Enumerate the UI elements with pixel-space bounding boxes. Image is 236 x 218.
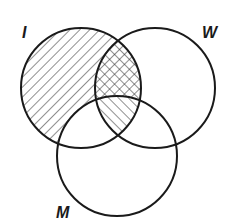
- label-w: W: [202, 24, 219, 41]
- label-i: I: [22, 24, 27, 41]
- venn-diagram: I W M: [0, 0, 236, 218]
- label-m: M: [56, 204, 70, 218]
